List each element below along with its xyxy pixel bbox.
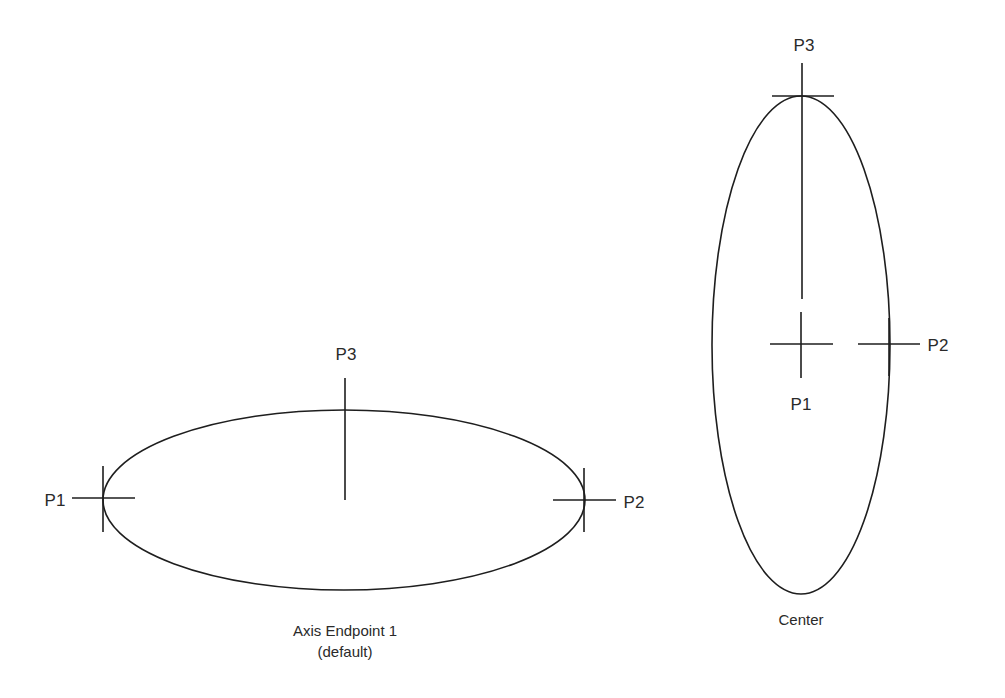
p2-crosshair-icon [553,468,616,532]
p3-crosshair-icon [772,63,834,299]
ellipse-construction-diagram: P1 P2 P3 Axis Endpoint 1 (default) P3 P1 [0,0,1005,698]
p2-label: P2 [928,336,949,355]
axis-endpoint-caption: Axis Endpoint 1 [293,622,397,639]
p1-label: P1 [791,395,812,414]
center-diagram: P3 P1 P2 Center [712,36,948,628]
axis-endpoint-ellipse [103,410,585,590]
p2-crosshair-icon [858,318,920,376]
p2-label: P2 [624,493,645,512]
axis-endpoint-diagram: P1 P2 P3 Axis Endpoint 1 (default) [45,345,645,660]
p1-crosshair-icon [72,466,135,532]
p1-crosshair-icon [770,312,833,378]
axis-endpoint-caption-default: (default) [317,643,372,660]
center-caption: Center [778,611,823,628]
p3-label: P3 [794,36,815,55]
p3-label: P3 [336,345,357,364]
p1-label: P1 [45,491,66,510]
